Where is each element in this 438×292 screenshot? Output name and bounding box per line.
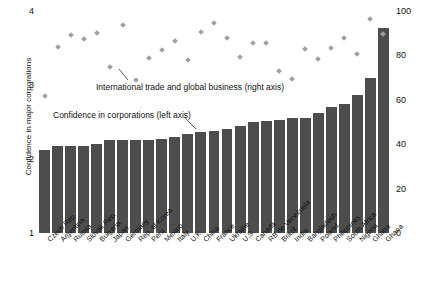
marker-japan <box>107 64 113 70</box>
marker-ukraine <box>224 35 230 41</box>
marker-bangladesh <box>302 46 308 52</box>
bar-germany <box>117 140 128 233</box>
bar-czech-rep <box>39 150 50 233</box>
marker-philippines <box>328 45 334 51</box>
bar-u-s <box>235 126 246 233</box>
category-axis-labels: Czech Rep.ArgentinaRussiaSlovak Rep.Bulg… <box>0 236 438 292</box>
marker-brazil <box>276 68 282 74</box>
bar-u-k <box>182 134 193 233</box>
plot-area <box>38 11 390 233</box>
marker-bulgaria <box>94 30 100 36</box>
marker-argentina <box>55 44 61 50</box>
annotation-international-trade: International trade and global business … <box>96 82 284 92</box>
chart-container: Confidence in major corporations Support… <box>0 0 438 292</box>
bar-south-africa <box>339 104 350 233</box>
marker-south-africa <box>342 35 348 41</box>
marker-ghana <box>368 16 374 22</box>
right-tick-100: 100 <box>396 7 426 16</box>
marker-rb-de-venezuela <box>263 40 269 46</box>
marker-mexico <box>159 47 165 53</box>
marker-nigeria <box>355 51 361 57</box>
right-tick-20: 20 <box>396 185 426 194</box>
bar-nigeria <box>352 95 363 233</box>
bar-italy <box>169 137 180 233</box>
bar-france <box>209 131 220 233</box>
bar-canada <box>248 122 259 233</box>
marker-germany <box>120 23 126 29</box>
annotation-confidence: Confidence in corporations (left axis) <box>53 110 191 120</box>
marker-czech-rep <box>42 94 48 100</box>
right-tick-40: 40 <box>396 140 426 149</box>
marker-peru <box>146 55 152 61</box>
bar-rb-de-venezuela <box>261 121 272 233</box>
marker-u-k <box>185 57 191 63</box>
marker-china <box>198 29 204 35</box>
bar-brazil <box>274 120 285 233</box>
bar-ghana <box>378 28 389 233</box>
bar-ukraine <box>222 129 233 233</box>
marker-u-s <box>237 54 243 60</box>
bar-poland <box>313 113 324 233</box>
marker-canada <box>250 40 256 46</box>
bar-bangladesh <box>300 118 311 233</box>
marker-russia <box>68 33 74 39</box>
right-tick-80: 80 <box>396 51 426 60</box>
right-tick-60: 60 <box>396 96 426 105</box>
marker-poland <box>315 56 321 62</box>
left-tick-4: 4 <box>4 7 34 16</box>
marker-italy <box>172 38 178 44</box>
bar-china <box>195 132 206 233</box>
left-tick-3: 3 <box>4 81 34 90</box>
marker-slovak-rep <box>81 36 87 42</box>
marker-india <box>289 76 295 82</box>
left-tick-2: 2 <box>4 155 34 164</box>
marker-france <box>211 20 217 26</box>
bar-rep-of-korea <box>130 140 141 233</box>
